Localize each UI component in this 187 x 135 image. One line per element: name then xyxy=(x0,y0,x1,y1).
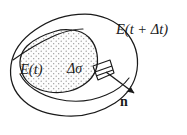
label-inner-region: E(t) xyxy=(20,62,43,77)
label-outer-region: E(t + Δt) xyxy=(116,22,168,37)
normal-vector-arrow xyxy=(106,72,134,93)
label-surface-element: Δσ xyxy=(67,62,82,76)
label-normal-vector: n xyxy=(120,95,128,109)
figure-container: E(t + Δt) E(t) Δσ n xyxy=(0,0,187,135)
